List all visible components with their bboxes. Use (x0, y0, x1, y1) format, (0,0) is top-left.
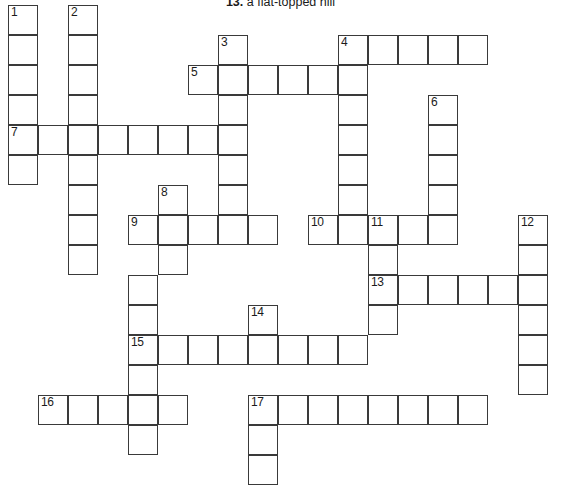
crossword-cell[interactable] (398, 395, 428, 425)
crossword-cell[interactable] (308, 65, 338, 95)
crossword-cell[interactable] (158, 395, 188, 425)
crossword-cell[interactable] (278, 65, 308, 95)
crossword-cell[interactable] (368, 245, 398, 275)
crossword-cell[interactable] (218, 95, 248, 125)
crossword-cell[interactable] (368, 305, 398, 335)
crossword-cell[interactable] (428, 155, 458, 185)
crossword-cell[interactable] (428, 395, 458, 425)
crossword-cell[interactable] (98, 125, 128, 155)
crossword-cell-15[interactable]: 15 (128, 335, 158, 365)
crossword-cell[interactable] (188, 335, 218, 365)
crossword-cell[interactable] (248, 425, 278, 455)
crossword-cell-3[interactable]: 3 (218, 35, 248, 65)
crossword-cell[interactable] (68, 125, 98, 155)
crossword-cell[interactable] (218, 125, 248, 155)
crossword-cell[interactable] (158, 215, 188, 245)
crossword-cell[interactable] (458, 395, 488, 425)
crossword-cell[interactable] (488, 275, 518, 305)
crossword-cell[interactable] (518, 365, 548, 395)
crossword-cell[interactable] (338, 335, 368, 365)
crossword-cell[interactable] (98, 395, 128, 425)
crossword-cell[interactable] (338, 125, 368, 155)
cell-number: 1 (11, 6, 17, 19)
crossword-cell-4[interactable]: 4 (338, 35, 368, 65)
crossword-cell[interactable] (278, 335, 308, 365)
crossword-cell[interactable] (68, 95, 98, 125)
crossword-cell[interactable] (218, 65, 248, 95)
cell-number: 3 (221, 36, 227, 49)
crossword-cell[interactable] (158, 245, 188, 275)
crossword-cell[interactable] (338, 95, 368, 125)
crossword-cell[interactable] (128, 425, 158, 455)
crossword-cell[interactable] (428, 275, 458, 305)
crossword-cell[interactable] (338, 185, 368, 215)
crossword-cell[interactable] (68, 35, 98, 65)
crossword-cell[interactable] (68, 65, 98, 95)
crossword-cell-12[interactable]: 12 (518, 215, 548, 245)
crossword-cell[interactable] (248, 215, 278, 245)
crossword-cell[interactable] (518, 335, 548, 365)
crossword-cell[interactable] (68, 185, 98, 215)
crossword-cell-14[interactable]: 14 (248, 305, 278, 335)
crossword-cell[interactable] (68, 245, 98, 275)
crossword-cell[interactable] (338, 155, 368, 185)
crossword-cell[interactable] (68, 395, 98, 425)
crossword-cell[interactable] (428, 215, 458, 245)
crossword-cell[interactable] (428, 35, 458, 65)
crossword-cell[interactable] (158, 335, 188, 365)
crossword-cell[interactable] (248, 335, 278, 365)
crossword-cell[interactable] (428, 125, 458, 155)
crossword-cell-1[interactable]: 1 (8, 5, 38, 35)
crossword-cell[interactable] (158, 125, 188, 155)
crossword-cell[interactable] (128, 365, 158, 395)
crossword-cell[interactable] (128, 395, 158, 425)
cell-number: 7 (11, 126, 17, 139)
crossword-cell[interactable] (68, 155, 98, 185)
crossword-cell[interactable] (248, 455, 278, 485)
crossword-cell-5[interactable]: 5 (188, 65, 218, 95)
crossword-cell[interactable] (68, 215, 98, 245)
crossword-cell[interactable] (518, 275, 548, 305)
crossword-cell[interactable] (458, 35, 488, 65)
crossword-cell[interactable] (128, 125, 158, 155)
crossword-cell[interactable] (308, 395, 338, 425)
crossword-cell[interactable] (338, 215, 368, 245)
crossword-cell[interactable] (518, 305, 548, 335)
crossword-cell[interactable] (8, 155, 38, 185)
crossword-cell-10[interactable]: 10 (308, 215, 338, 245)
crossword-cell[interactable] (128, 275, 158, 305)
crossword-cell-7[interactable]: 7 (8, 125, 38, 155)
crossword-cell-17[interactable]: 17 (248, 395, 278, 425)
crossword-cell[interactable] (218, 185, 248, 215)
crossword-cell-2[interactable]: 2 (68, 5, 98, 35)
crossword-cell[interactable] (428, 185, 458, 215)
crossword-cell[interactable] (188, 215, 218, 245)
crossword-cell-9[interactable]: 9 (128, 215, 158, 245)
crossword-cell[interactable] (128, 305, 158, 335)
crossword-cell[interactable] (458, 275, 488, 305)
crossword-cell[interactable] (8, 65, 38, 95)
crossword-cell-11[interactable]: 11 (368, 215, 398, 245)
crossword-cell[interactable] (218, 215, 248, 245)
crossword-cell[interactable] (188, 125, 218, 155)
crossword-cell[interactable] (218, 335, 248, 365)
crossword-cell[interactable] (398, 35, 428, 65)
crossword-cell[interactable] (338, 395, 368, 425)
crossword-cell[interactable] (368, 395, 398, 425)
crossword-cell[interactable] (368, 35, 398, 65)
crossword-cell[interactable] (308, 335, 338, 365)
crossword-cell-13[interactable]: 13 (368, 275, 398, 305)
crossword-cell[interactable] (218, 155, 248, 185)
crossword-cell[interactable] (398, 215, 428, 245)
crossword-cell-8[interactable]: 8 (158, 185, 188, 215)
crossword-cell[interactable] (398, 275, 428, 305)
crossword-cell[interactable] (8, 35, 38, 65)
crossword-cell[interactable] (8, 95, 38, 125)
crossword-cell[interactable] (248, 65, 278, 95)
crossword-cell-16[interactable]: 16 (38, 395, 68, 425)
crossword-cell[interactable] (518, 245, 548, 275)
crossword-cell-6[interactable]: 6 (428, 95, 458, 125)
crossword-cell[interactable] (278, 395, 308, 425)
crossword-cell[interactable] (338, 65, 368, 95)
crossword-cell[interactable] (38, 125, 68, 155)
